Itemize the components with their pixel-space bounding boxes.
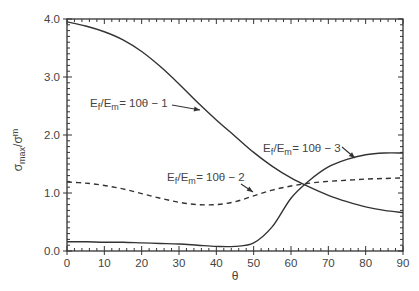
x-tick-label: 70 xyxy=(322,257,335,269)
y-tick-label: 0.0 xyxy=(44,245,60,257)
arrowhead-icon xyxy=(247,187,253,192)
chart-figure: 01020304050607080900.01.02.03.04.0 Ef /E… xyxy=(0,0,419,291)
x-tick-label: 40 xyxy=(210,257,223,269)
y-tick-label: 4.0 xyxy=(44,13,60,25)
y-axis-label: σmax/σm xyxy=(10,129,27,172)
x-tick-label: 80 xyxy=(359,257,372,269)
curve-annotations: Ef /Em = 10θ − 1Ef /Em = 10θ − 2Ef /Em =… xyxy=(90,97,355,192)
axis-ticks: 01020304050607080900.01.02.03.04.0 xyxy=(44,13,409,269)
series-line-1 xyxy=(67,22,403,213)
svg-text:σmax/σm: σmax/σm xyxy=(10,129,27,172)
y-tick-label: 3.0 xyxy=(44,71,60,83)
x-tick-label: 20 xyxy=(135,257,148,269)
x-tick-label: 10 xyxy=(98,257,111,269)
x-tick-label: 30 xyxy=(173,257,186,269)
x-tick-label: 90 xyxy=(397,257,410,269)
series-annotation-1: Ef /Em = 10θ − 1 xyxy=(90,97,168,112)
series-line-3 xyxy=(67,153,403,247)
series-annotation-3: Ef /Em = 10θ − 3 xyxy=(263,142,341,157)
data-series xyxy=(67,22,403,247)
plot-axes xyxy=(67,19,403,251)
y-tick-label: 2.0 xyxy=(44,129,60,141)
arrowhead-icon xyxy=(194,106,200,111)
line-chart: 01020304050607080900.01.02.03.04.0 Ef /E… xyxy=(0,0,419,291)
plot-frame xyxy=(67,19,403,251)
x-tick-label: 50 xyxy=(247,257,260,269)
series-annotation-2: Ef /Em = 10θ − 2 xyxy=(167,171,245,186)
x-tick-label: 0 xyxy=(64,257,70,269)
y-tick-label: 1.0 xyxy=(44,187,60,199)
x-axis-label: θ xyxy=(232,269,239,283)
x-tick-label: 60 xyxy=(285,257,298,269)
